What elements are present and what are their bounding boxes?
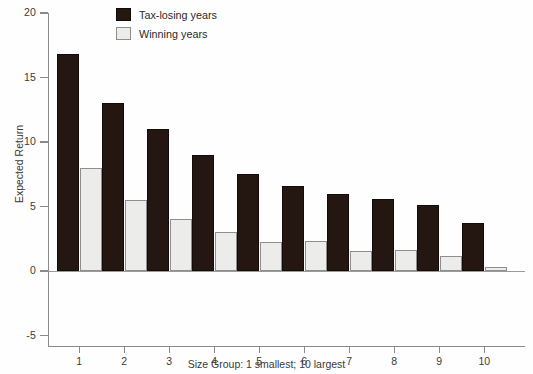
chart-legend: Tax-losing years Winning years	[116, 6, 217, 44]
bar-winning-group-1	[80, 168, 102, 271]
y-tick-mark	[40, 206, 48, 207]
legend-item-winning-years: Winning years	[116, 25, 217, 42]
bar-tax-losing-group-4	[192, 155, 214, 271]
bar-tax-losing-group-8	[372, 199, 394, 271]
legend-label-tax-losing-years: Tax-losing years	[139, 9, 217, 21]
y-tick-label: -5	[6, 329, 36, 341]
expected-return-bar-chart: Expected Return 20151050-5 12345678910 S…	[0, 0, 533, 374]
bar-winning-group-10	[485, 267, 507, 271]
x-tick-mark	[349, 347, 350, 353]
bar-winning-group-6	[305, 241, 327, 271]
x-tick-mark	[169, 347, 170, 353]
y-tick-label: 10	[6, 135, 36, 147]
bar-tax-losing-group-10	[462, 223, 484, 271]
bar-winning-group-8	[395, 250, 417, 271]
y-tick-mark	[40, 270, 48, 271]
x-tick-mark	[484, 347, 485, 353]
x-tick-mark	[304, 347, 305, 353]
y-tick-label: 15	[6, 71, 36, 83]
y-tick-label: 5	[6, 200, 36, 212]
x-tick-mark	[439, 347, 440, 353]
x-tick-mark	[259, 347, 260, 353]
bar-winning-group-4	[215, 232, 237, 271]
bar-tax-losing-group-7	[327, 194, 349, 271]
legend-item-tax-losing-years: Tax-losing years	[116, 6, 217, 23]
legend-swatch-light-icon	[116, 27, 131, 40]
y-tick-mark	[40, 335, 48, 336]
y-tick-mark	[40, 77, 48, 78]
bar-winning-group-3	[170, 219, 192, 271]
x-tick-mark	[79, 347, 80, 353]
y-tick-mark	[40, 141, 48, 142]
bar-tax-losing-group-5	[237, 174, 259, 271]
bar-tax-losing-group-9	[417, 205, 439, 271]
x-axis-title: Size Group: 1 smallest; 10 largest	[0, 358, 533, 370]
legend-label-winning-years: Winning years	[139, 28, 207, 40]
legend-swatch-dark-icon	[116, 8, 131, 21]
x-tick-mark	[124, 347, 125, 353]
y-tick-label: 0	[6, 264, 36, 276]
x-tick-mark	[214, 347, 215, 353]
bar-winning-group-7	[350, 251, 372, 271]
bar-tax-losing-group-1	[57, 54, 79, 271]
bar-winning-group-5	[260, 242, 282, 271]
y-tick-label: 20	[6, 6, 36, 18]
y-tick-mark	[40, 12, 48, 13]
x-tick-mark	[394, 347, 395, 353]
bar-tax-losing-group-6	[282, 186, 304, 271]
bar-tax-losing-group-2	[102, 103, 124, 271]
zero-baseline	[48, 271, 525, 272]
bar-winning-group-2	[125, 200, 147, 271]
bar-winning-group-9	[440, 256, 462, 271]
bar-tax-losing-group-3	[147, 129, 169, 271]
